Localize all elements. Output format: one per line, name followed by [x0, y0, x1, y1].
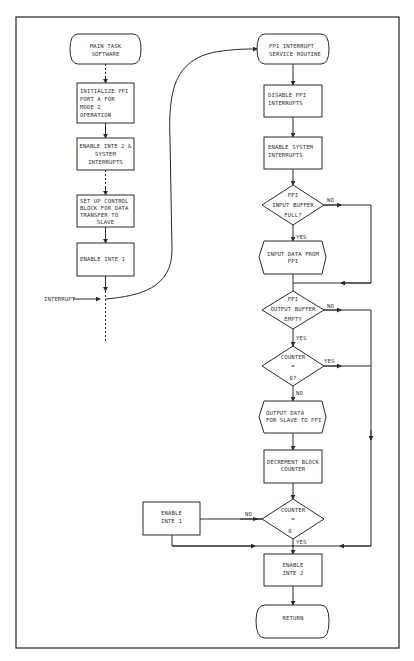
main-task-terminal: [70, 34, 141, 64]
return-terminal: [256, 605, 329, 638]
decision2-yes-label: YES: [296, 335, 306, 341]
right-column: PPI INTERRUPT SERVICE ROUTINE DISABLE PP…: [143, 34, 371, 638]
junction-dot: [292, 545, 294, 547]
diagram-frame: [16, 17, 399, 648]
decision2-line-2: OUTPUT BUFFER: [270, 306, 316, 312]
setup-line-1: SET UP CONTROL: [80, 198, 129, 204]
setup-line-3: TRANSFER TO: [80, 212, 119, 218]
isr-label-2: SERVICE ROUTINE: [269, 51, 322, 57]
initialize-line-3: MODE 2: [80, 104, 101, 110]
enable-inte2-line-1: ENABLE INTE 2 &: [79, 143, 132, 149]
input-data-line-2: PPI: [288, 258, 298, 264]
main-task-label-2: SOFTWARE: [92, 51, 120, 57]
decision4-yes-label: YES: [296, 539, 306, 545]
decision3-line-1: COUNTER: [281, 354, 306, 360]
left-column: MAIN TASK SOFTWARE INITIALIZE PPI PORT A…: [44, 34, 257, 342]
enable-inte2-box-line-2: INTE 2: [283, 570, 304, 576]
decision4-line-2: =: [291, 516, 295, 522]
decision4-no-label: NO: [245, 511, 252, 517]
decision1-no-label: NO: [327, 197, 334, 203]
decision3-yes-label: YES: [324, 358, 334, 364]
main-task-label-1: MAIN TASK: [90, 43, 122, 49]
merge-line: [172, 535, 371, 546]
input-data-line-1: INPUT DATA FROM: [267, 251, 320, 257]
decision4-line-3: 0: [288, 528, 291, 534]
initialize-line-1: INITIALIZE PPI: [80, 88, 129, 94]
isr-terminal: [257, 34, 329, 64]
decision2-line-3: EMPTY: [284, 316, 302, 322]
decision2-line-1: PPI: [288, 296, 298, 302]
decision3-no-label: NO: [296, 390, 303, 396]
interrupt-label: INTERRUPT: [44, 296, 76, 302]
flowchart-canvas: MAIN TASK SOFTWARE INITIALIZE PPI PORT A…: [0, 0, 414, 661]
setup-line-2: BLOCK FOR DATA: [80, 205, 129, 211]
decrement-line-1: DECREMENT BLOCK: [267, 459, 320, 465]
setup-line-4: SLAVE: [97, 219, 115, 225]
enable-inte2-line-2: SYSTEM: [95, 151, 116, 157]
decision2-no-label: NO: [327, 303, 334, 309]
decision2-no-path: [324, 310, 371, 546]
enable-inte1-branch-line-1: ENABLE: [161, 510, 182, 516]
decision1-line-3: FULL?: [284, 212, 301, 218]
disable-line-1: DISABLE PPI: [268, 92, 306, 98]
decrement-line-2: COUNTER: [281, 466, 306, 472]
decision1-line-1: PPI: [288, 192, 298, 198]
enable-inte1-label: ENABLE INTE 1: [80, 256, 125, 262]
enable-inte2-line-3: INTERRUPTS: [88, 159, 123, 165]
decision4-line-1: COUNTER: [281, 507, 306, 513]
enable-system-line-2: INTERRUPTS: [268, 152, 303, 158]
output-data-line-2: FOR SLAVE TO PPI: [266, 417, 321, 423]
decision1-yes-label: YES: [296, 234, 306, 240]
isr-label-1: PPI INTERRUPT: [269, 43, 315, 49]
decision1-line-2: INPUT BUFFER: [272, 202, 314, 208]
initialize-line-4: OPERATION: [80, 112, 111, 118]
output-data-line-1: OUTPUT DATA: [266, 410, 305, 416]
enable-inte2-box-line-1: ENABLE: [283, 562, 304, 568]
decision3-line-2: =: [291, 363, 295, 369]
return-label: RETURN: [283, 615, 304, 621]
disable-line-2: INTERRUPTS: [268, 100, 303, 106]
initialize-line-2: PORT A FOR: [80, 96, 115, 102]
enable-inte1-branch-line-2: INTE 1: [161, 518, 182, 524]
enable-system-line-1: ENABLE SYSTEM: [268, 144, 314, 150]
arrow: [253, 517, 259, 521]
decision3-line-3: 0?: [290, 375, 297, 381]
